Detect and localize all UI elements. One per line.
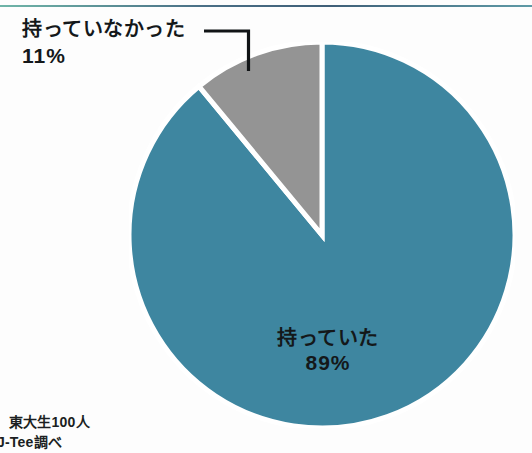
source-note: 東大生100人 J-Tee調べ [0, 412, 90, 453]
slice-label-major: 持っていた 89% [258, 327, 398, 375]
source-note-line-2: J-Tee調べ [0, 432, 90, 452]
slice-label-minor-text: 持っていなかった [22, 18, 185, 40]
slice-label-minor-percent: 11% [22, 44, 185, 69]
slice-label-minor: 持っていなかった 11% [22, 18, 185, 68]
slice-label-major-text: 持っていた [277, 327, 379, 349]
chart-page: 持っていた 89% 持っていなかった 11% 東大生100人 J-Tee調べ [0, 0, 532, 453]
page-top-rule [0, 5, 532, 7]
source-note-line-1: 東大生100人 [0, 412, 90, 432]
slice-label-major-percent: 89% [258, 351, 398, 376]
